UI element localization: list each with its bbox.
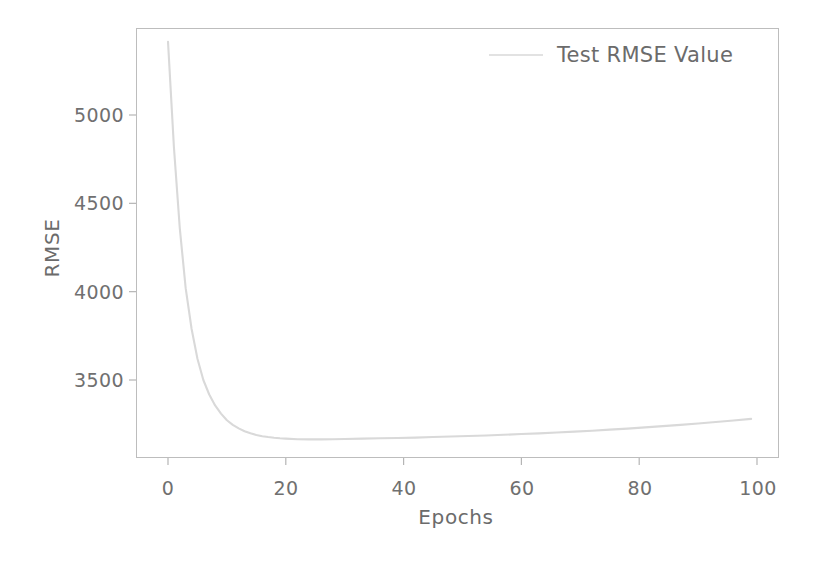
y-axis-ticks	[129, 115, 136, 380]
y-axis-title: RMSE	[40, 188, 64, 308]
x-tick-label: 100	[723, 477, 793, 499]
chart-legend: Test RMSE Value	[489, 38, 733, 72]
x-tick-label: 0	[133, 477, 203, 499]
chart-figure: 5000 4500 4000 3500 0 20 40 60 80 100 RM…	[0, 0, 818, 561]
x-tick-label: 80	[605, 477, 675, 499]
x-axis-ticks	[168, 458, 757, 465]
legend-line-swatch	[489, 54, 543, 56]
x-axis-title: Epochs	[316, 505, 596, 529]
y-tick-label: 5000	[38, 104, 124, 126]
x-tick-label: 20	[251, 477, 321, 499]
plot-area-frame	[136, 28, 779, 458]
x-tick-label: 40	[369, 477, 439, 499]
legend-item-label: Test RMSE Value	[557, 43, 733, 67]
y-tick-label: 3500	[38, 369, 124, 391]
x-tick-label: 60	[487, 477, 557, 499]
